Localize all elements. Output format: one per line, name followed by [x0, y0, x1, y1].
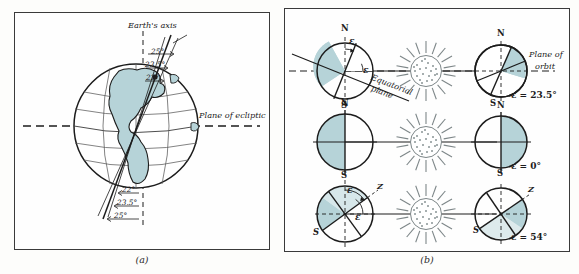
north-label-row1-right: N [497, 29, 505, 38]
angle-bottom-23-5: 23.5° [117, 199, 137, 207]
z-axis-label-row3-left: Z [377, 182, 383, 191]
obliquity-value-row2: ε = 0° [511, 161, 541, 171]
south-label-row3-right: S [473, 226, 479, 235]
north-label-row2-right: N [497, 101, 505, 110]
epsilon-equator-row1: ε [363, 65, 368, 75]
angle-top-22: 22° [146, 74, 159, 82]
panel-a-caption: (a) [122, 254, 162, 265]
panel-b-graphic [285, 9, 568, 250]
obliquity-value-row3: ε = 54° [511, 232, 547, 242]
epsilon-axis-row1: ε [349, 36, 354, 46]
ecliptic-label-leader [201, 121, 211, 126]
epsilon-axis-row3: ε [347, 185, 352, 195]
earth-axis-leader [173, 35, 187, 43]
panel-b: N S ε ε Equatorial plane N S Plane of or… [284, 8, 570, 252]
angle-bottom-25: 25° [114, 212, 127, 220]
plane-of-orbit-label-line2: orbit [535, 62, 555, 71]
angle-top-23-5: 23.5° [145, 61, 165, 69]
z-axis-label-row3-right: Z [528, 185, 534, 194]
figure-obliquity: Earth's axis Plane of ecliptic 25° 23.5°… [0, 0, 579, 274]
obliquity-value-row1: ε = 23.5° [511, 90, 557, 100]
panel-b-caption: (b) [407, 254, 447, 265]
south-label-row2-right: S [497, 169, 503, 178]
plane-of-orbit-label-line1: Plane of [529, 50, 563, 59]
angle-top-25: 25° [151, 48, 164, 56]
plane-of-ecliptic-label: Plane of ecliptic [199, 111, 266, 120]
panel-a-graphic [15, 13, 268, 248]
north-label-row1-left: N [341, 24, 349, 33]
earths-axis-label: Earth's axis [128, 21, 177, 30]
panel-a: Earth's axis Plane of ecliptic 25° 23.5°… [14, 12, 270, 250]
earth-row2-left [313, 110, 377, 174]
south-label-row3-left: S [313, 228, 319, 237]
north-label-row2-left: N [341, 99, 349, 108]
south-label-row2-left: S [341, 171, 347, 180]
angle-bottom-22: 22° [122, 186, 135, 194]
epsilon-equator-row3: ε [355, 212, 360, 222]
south-label-row1-right: S [490, 99, 496, 108]
